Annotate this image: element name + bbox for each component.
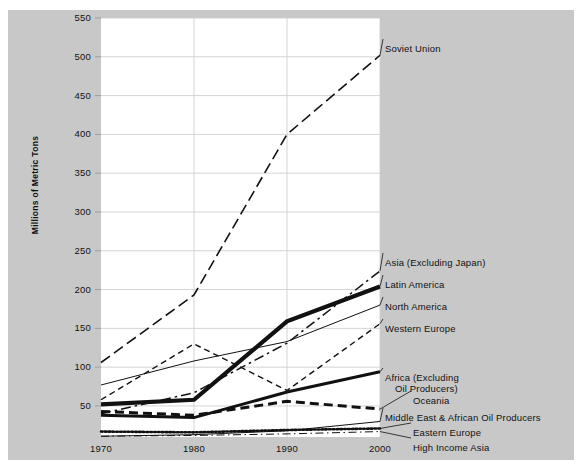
series-label: Asia (Excluding Japan) xyxy=(385,257,485,268)
series-label: Eastern Europe xyxy=(413,427,481,438)
series-label-line: Soviet Union xyxy=(385,43,441,54)
series-line xyxy=(101,428,380,432)
series-label-line: Latin America xyxy=(385,279,445,290)
series-line xyxy=(101,55,380,362)
series-label-line: Oil Producers) xyxy=(385,383,459,394)
series-label: Oceania xyxy=(413,395,449,406)
y-tick-label: 200 xyxy=(49,284,91,295)
series-label: High Income Asia xyxy=(413,442,489,453)
series-line xyxy=(101,286,380,404)
series-label-line: North America xyxy=(385,301,447,312)
y-tick-label: 300 xyxy=(49,206,91,217)
x-tick-label: 2000 xyxy=(355,443,405,454)
series-label-line: Asia (Excluding Japan) xyxy=(385,257,485,268)
y-tick-label: 250 xyxy=(49,245,91,256)
y-tick-label: 500 xyxy=(49,51,91,62)
series-label: Africa (ExcludingOil Producers) xyxy=(385,372,459,394)
y-tick-label: 350 xyxy=(49,167,91,178)
series-line xyxy=(101,271,380,414)
y-tick-label: 150 xyxy=(49,322,91,333)
chart-figure: Millions of Metric Tons 5010015020025030… xyxy=(8,10,574,460)
y-tick-label: 50 xyxy=(49,400,91,411)
y-tick-label: 100 xyxy=(49,361,91,372)
series-layer xyxy=(101,55,380,436)
series-line xyxy=(101,305,380,385)
x-tick-label: 1980 xyxy=(169,443,219,454)
chart-canvas xyxy=(8,10,574,460)
y-tick-label: 450 xyxy=(49,90,91,101)
gridlines xyxy=(95,18,380,406)
series-label-line: Oceania xyxy=(413,395,449,406)
y-tick-label: 550 xyxy=(49,12,91,23)
series-label-line: Africa (Excluding xyxy=(385,372,459,383)
series-label: Western Europe xyxy=(385,323,456,334)
series-label-line: Eastern Europe xyxy=(413,427,481,438)
x-tick-label: 1970 xyxy=(76,443,126,454)
series-label: Soviet Union xyxy=(385,43,441,54)
series-label: North America xyxy=(385,301,447,312)
y-tick-label: 400 xyxy=(49,128,91,139)
series-line xyxy=(101,372,380,418)
series-label: Middle East & African Oil Producers xyxy=(385,412,541,423)
series-label-line: High Income Asia xyxy=(413,442,489,453)
series-label-line: Middle East & African Oil Producers xyxy=(385,412,541,423)
x-tick-label: 1990 xyxy=(262,443,312,454)
series-label-line: Western Europe xyxy=(385,323,456,334)
series-label: Latin America xyxy=(385,279,445,290)
